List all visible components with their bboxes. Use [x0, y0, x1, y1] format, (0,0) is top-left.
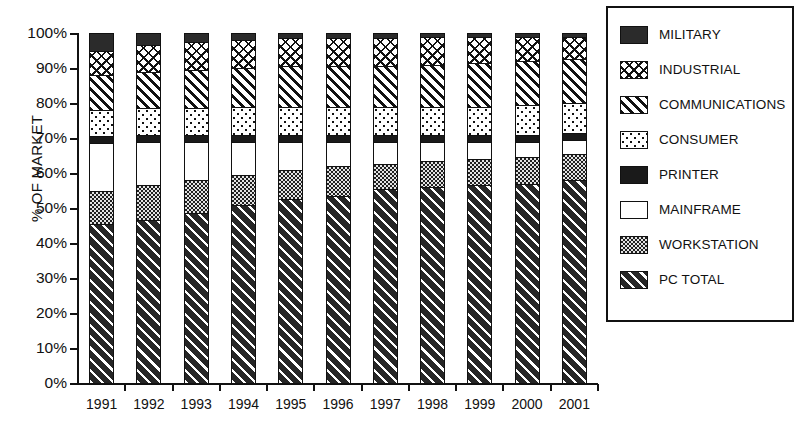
y-tick-mark — [70, 348, 78, 350]
legend-label: WORKSTATION — [659, 237, 759, 252]
y-tick-label: 70% — [36, 129, 67, 147]
bar-segment-mainframe — [326, 142, 351, 168]
bar-segment-workstation — [278, 170, 303, 201]
bar-1998 — [420, 34, 445, 384]
bar-segment-printer — [326, 135, 351, 143]
bar-segment-workstation — [515, 157, 540, 184]
y-tick-mark — [70, 313, 78, 315]
bar-segment-printer — [562, 133, 587, 141]
bar-1996 — [326, 34, 351, 384]
x-tick-mark — [502, 384, 504, 391]
bar-segment-mainframe — [467, 142, 492, 161]
x-tick-mark — [313, 384, 315, 391]
bar-segment-pc-total — [562, 180, 587, 384]
y-tick-label: 20% — [36, 304, 67, 322]
bar-segment-mainframe — [136, 142, 161, 187]
bar-1992 — [136, 34, 161, 384]
bar-segment-printer — [89, 136, 114, 144]
x-axis-label-1996: 1996 — [312, 396, 364, 412]
plot-area: 0%10%20%30%40%50%60%70%80%90%100% 199119… — [78, 34, 598, 384]
bar-1993 — [184, 34, 209, 384]
bar-segment-military — [326, 33, 351, 39]
y-tick-label: 60% — [36, 164, 67, 182]
x-axis-label-2001: 2001 — [548, 396, 600, 412]
y-tick-label: 50% — [36, 199, 67, 217]
y-tick-mark — [70, 68, 78, 70]
bar-segment-industrial — [231, 40, 256, 69]
bar-segment-pc-total — [136, 220, 161, 384]
legend-label: MAINFRAME — [659, 202, 741, 217]
bar-segment-military — [278, 33, 303, 39]
bar-1995 — [278, 34, 303, 384]
bar-segment-communications — [467, 63, 492, 108]
legend-swatch-icon — [620, 236, 648, 254]
y-tick-mark — [70, 103, 78, 105]
legend-label: PC TOTAL — [659, 272, 724, 287]
x-axis-label-1997: 1997 — [359, 396, 411, 412]
legend-swatch-icon — [620, 26, 648, 44]
bar-segment-communications — [373, 66, 398, 107]
bar-segment-communications — [184, 70, 209, 110]
legend-label: COMMUNICATIONS — [659, 97, 785, 112]
y-tick-mark — [70, 243, 78, 245]
legend-item-industrial[interactable]: INDUSTRIAL — [620, 52, 792, 87]
y-tick-mark — [70, 208, 78, 210]
bar-segment-communications — [420, 65, 445, 108]
bar-segment-consumer — [562, 103, 587, 134]
bar-segment-consumer — [420, 107, 445, 136]
y-tick-mark — [70, 33, 78, 35]
y-tick-mark — [70, 173, 78, 175]
y-tick-label: 0% — [45, 374, 67, 392]
bar-segment-workstation — [562, 154, 587, 181]
bar-segment-industrial — [467, 37, 492, 64]
legend-swatch-icon — [620, 271, 648, 289]
legend-label: CONSUMER — [659, 132, 739, 147]
x-tick-mark — [408, 384, 410, 391]
bar-segment-mainframe — [89, 143, 114, 191]
legend-item-printer[interactable]: PRINTER — [620, 157, 792, 192]
legend-swatch-icon — [620, 131, 648, 149]
bar-segment-communications — [515, 61, 540, 106]
x-axis-label-1995: 1995 — [265, 396, 317, 412]
bar-segment-printer — [231, 135, 256, 143]
bar-segment-mainframe — [515, 142, 540, 159]
legend: MILITARYINDUSTRIALCOMMUNICATIONSCONSUMER… — [606, 6, 794, 322]
bar-segment-pc-total — [420, 187, 445, 384]
bar-segment-mainframe — [184, 142, 209, 182]
bar-segment-military — [184, 33, 209, 43]
bar-1991 — [89, 34, 114, 384]
y-tick-label: 80% — [36, 94, 67, 112]
bar-segment-industrial — [278, 38, 303, 67]
bar-2000 — [515, 34, 540, 384]
bar-segment-communications — [136, 72, 161, 110]
x-axis-label-1993: 1993 — [170, 396, 222, 412]
bar-segment-printer — [373, 135, 398, 143]
legend-item-communications[interactable]: COMMUNICATIONS — [620, 87, 792, 122]
x-tick-mark — [597, 384, 599, 391]
bar-segment-industrial — [373, 38, 398, 67]
bar-segment-pc-total — [89, 224, 114, 384]
y-tick-mark — [70, 278, 78, 280]
bar-segment-workstation — [136, 185, 161, 221]
bar-segment-printer — [420, 135, 445, 143]
bar-segment-military — [420, 33, 445, 38]
bar-segment-workstation — [184, 180, 209, 214]
bar-segment-pc-total — [373, 189, 398, 384]
bar-segment-military — [136, 33, 161, 46]
legend-label: INDUSTRIAL — [659, 62, 740, 77]
legend-item-consumer[interactable]: CONSUMER — [620, 122, 792, 157]
legend-item-workstation[interactable]: WORKSTATION — [620, 227, 792, 262]
bar-segment-mainframe — [420, 142, 445, 162]
legend-item-military[interactable]: MILITARY — [620, 17, 792, 52]
bar-segment-consumer — [278, 107, 303, 136]
bar-segment-pc-total — [326, 196, 351, 384]
bar-segment-industrial — [420, 37, 445, 66]
bar-segment-communications — [278, 66, 303, 107]
legend-item-mainframe[interactable]: MAINFRAME — [620, 192, 792, 227]
bar-segment-consumer — [467, 107, 492, 136]
legend-label: PRINTER — [659, 167, 719, 182]
legend-item-pc-total[interactable]: PC TOTAL — [620, 262, 792, 297]
x-axis-label-1994: 1994 — [217, 396, 269, 412]
bar-segment-mainframe — [562, 140, 587, 155]
bar-1994 — [231, 34, 256, 384]
